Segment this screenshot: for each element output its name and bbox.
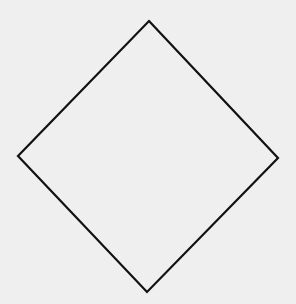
- diagram-svg: [0, 0, 296, 304]
- diamond-shape: [18, 21, 278, 292]
- diagram-canvas: [0, 0, 296, 304]
